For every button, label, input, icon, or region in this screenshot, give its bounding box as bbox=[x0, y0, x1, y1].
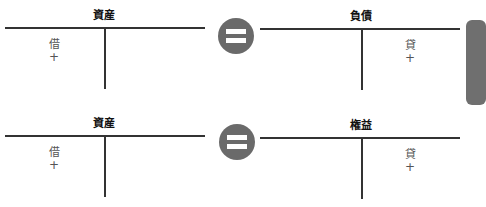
equals-bar-bottom bbox=[226, 38, 246, 43]
t-account-vertical-rule bbox=[104, 27, 106, 89]
equals-icon bbox=[218, 18, 254, 54]
equals-icon bbox=[219, 124, 255, 160]
t-account-vertical-rule bbox=[361, 28, 363, 90]
credit-label: 貸 bbox=[405, 145, 416, 161]
account-title: 負債 bbox=[350, 7, 373, 23]
edge-tab bbox=[466, 20, 486, 105]
account-title: 資産 bbox=[93, 6, 116, 22]
equation-assets-equity: 資産 借 + 権益 貸 + bbox=[0, 107, 476, 207]
equals-bar-top bbox=[226, 29, 246, 34]
equation-assets-liabilities: 資産 借 + 負債 貸 + bbox=[0, 0, 476, 100]
account-title: 資産 bbox=[93, 114, 116, 130]
equals-bar-bottom bbox=[227, 144, 247, 149]
plus-sign: + bbox=[405, 51, 415, 65]
t-account-horizontal-rule bbox=[260, 28, 460, 30]
debit-label: 借 bbox=[49, 35, 60, 51]
t-account-horizontal-rule bbox=[260, 137, 460, 139]
plus-sign: + bbox=[49, 158, 59, 172]
equals-bar-top bbox=[227, 135, 247, 140]
account-title: 権益 bbox=[350, 116, 373, 132]
debit-label: 借 bbox=[49, 143, 60, 159]
credit-label: 貸 bbox=[405, 36, 416, 52]
plus-sign: + bbox=[405, 160, 415, 174]
plus-sign: + bbox=[49, 50, 59, 64]
t-account-vertical-rule bbox=[104, 135, 106, 197]
t-account-vertical-rule bbox=[361, 137, 363, 199]
